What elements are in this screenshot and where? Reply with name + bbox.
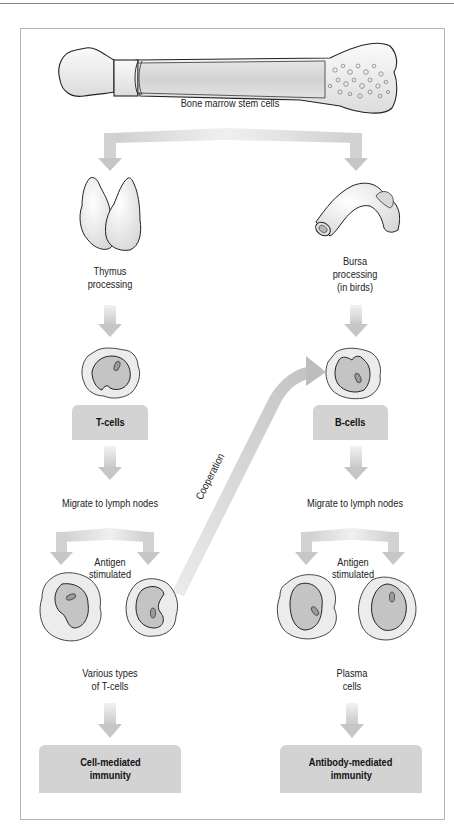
antigen-t-cell-icon [40, 573, 101, 641]
arrow-thymus-to-tcell [98, 305, 122, 337]
various-tcells-label-1: Various types [66, 667, 154, 680]
arrow-bcells-migrate [344, 446, 368, 480]
bone-marrow-label: Bone marrow stem cells [164, 97, 296, 110]
thymus-icon [80, 177, 141, 250]
t-cells-box: T-cells [72, 405, 148, 440]
antigen-b-cell-icon [277, 575, 336, 639]
split-arrow-top [98, 128, 368, 171]
t-antigen-label-2: stimulated [75, 568, 145, 581]
bursa-label-2: processing [311, 268, 399, 281]
arrow-to-antibody-mediated [340, 703, 364, 738]
thymus-label-1: Thymus [66, 265, 154, 278]
bursa-icon [313, 183, 400, 238]
arrow-to-cell-mediated [98, 703, 122, 738]
antibody-mediated-label-1: Antibody-mediated [309, 756, 393, 769]
b-cell-icon [326, 348, 381, 399]
plasma-cells-label-2: cells [308, 680, 396, 693]
plasma-cell-icon [359, 577, 417, 640]
b-antigen-label-2: stimulated [318, 568, 388, 581]
various-tcells-label-2: of T-cells [66, 680, 154, 693]
b-cells-label: B-cells [335, 416, 365, 429]
antibody-mediated-box: Antibody-mediated immunity [280, 745, 422, 793]
cell-mediated-label-1: Cell-mediated [80, 756, 141, 769]
thymus-label-2: processing [66, 278, 154, 291]
t-cell-icon [82, 348, 140, 398]
arrow-bursa-to-bcell [344, 305, 368, 337]
arrow-tcells-migrate [98, 446, 122, 480]
cell-mediated-label-2: immunity [89, 769, 130, 782]
plasma-cells-label-1: Plasma [308, 667, 396, 680]
antibody-mediated-label-2: immunity [330, 769, 371, 782]
b-cells-box: B-cells [313, 405, 388, 440]
t-migrate-label: Migrate to lymph nodes [48, 497, 171, 510]
bursa-label-1: Bursa [311, 255, 399, 268]
bursa-label-3: (in birds) [311, 281, 399, 294]
cell-mediated-box: Cell-mediated immunity [39, 745, 181, 793]
antigen-t-cell-icon-2 [126, 579, 178, 637]
b-migrate-label: Migrate to lymph nodes [293, 497, 416, 510]
t-cells-label: T-cells [96, 416, 125, 429]
